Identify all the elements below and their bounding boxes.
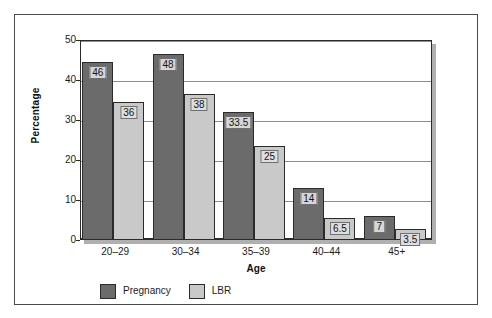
x-axis-title: Age	[80, 263, 432, 274]
bar-lbr-35–39[interactable]: 25	[254, 146, 285, 240]
chart-legend: PregnancyLBR	[100, 282, 249, 300]
bar-group: 4636	[80, 40, 150, 240]
bar-group: 146.5	[291, 40, 361, 240]
bar-value-label: 38	[191, 98, 208, 111]
x-tick-label: 35–39	[221, 246, 291, 258]
y-tick-mark	[76, 160, 80, 161]
y-axis-tick-labels: 01020304050	[50, 40, 76, 240]
y-tick-mark	[76, 200, 80, 201]
y-tick-mark	[76, 80, 80, 81]
bar-group: 73.5	[362, 40, 432, 240]
bar-chart-figure: Percentage 01020304050 4636483833.525146…	[14, 14, 478, 305]
legend-swatch-pregnancy	[100, 284, 116, 299]
y-tick-label: 50	[52, 35, 76, 45]
y-tick-label: 10	[52, 195, 76, 205]
legend-label: Pregnancy	[123, 285, 171, 297]
y-tick-mark	[76, 120, 80, 121]
x-tick-label: 45+	[362, 246, 432, 258]
y-tick-label: 0	[52, 235, 76, 245]
legend-item-lbr[interactable]: LBR	[189, 284, 231, 299]
bar-value-label: 14	[300, 192, 317, 205]
bar-value-label: 6.5	[330, 222, 350, 235]
bar-lbr-45+[interactable]: 3.5	[395, 229, 426, 240]
bar-value-label: 7	[374, 220, 386, 233]
x-tick-label: 20–29	[80, 246, 150, 258]
bar-value-label: 3.5	[400, 233, 420, 246]
bar-pregnancy-35–39[interactable]: 33.5	[223, 112, 254, 240]
x-tick-label: 30–34	[150, 246, 220, 258]
y-tick-label: 30	[52, 115, 76, 125]
y-tick-mark	[76, 240, 80, 241]
bar-value-label: 48	[160, 58, 177, 71]
bar-pregnancy-45+[interactable]: 7	[364, 216, 395, 240]
bar-pregnancy-40–44[interactable]: 14	[293, 188, 324, 240]
bar-pregnancy-20–29[interactable]: 46	[82, 62, 113, 240]
y-tick-label: 40	[52, 75, 76, 85]
legend-swatch-lbr	[189, 284, 205, 299]
bar-lbr-20–29[interactable]: 36	[113, 102, 144, 240]
x-axis-tick-labels: 20–2930–3435–3940–4445+	[80, 246, 432, 260]
y-tick-mark	[76, 40, 80, 41]
bar-value-label: 36	[120, 106, 137, 119]
y-axis-title: Percentage	[30, 71, 41, 161]
bar-pregnancy-30–34[interactable]: 48	[153, 54, 184, 240]
bar-lbr-30–34[interactable]: 38	[184, 94, 215, 240]
bar-group: 33.525	[221, 40, 291, 240]
bar-value-label: 25	[261, 150, 278, 163]
bar-value-label: 46	[89, 66, 106, 79]
bar-groups: 4636483833.525146.573.5	[80, 40, 432, 240]
legend-label: LBR	[212, 285, 231, 297]
bar-group: 4838	[150, 40, 220, 240]
bar-value-label: 33.5	[226, 116, 251, 129]
y-tick-label: 20	[52, 155, 76, 165]
bar-lbr-40–44[interactable]: 6.5	[324, 218, 355, 240]
legend-item-pregnancy[interactable]: Pregnancy	[100, 284, 171, 299]
x-tick-label: 40–44	[291, 246, 361, 258]
screenshot-root: Percentage 01020304050 4636483833.525146…	[0, 0, 492, 318]
